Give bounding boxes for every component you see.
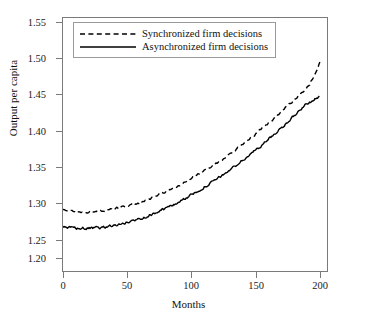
y-tick-label: 1.25 <box>28 236 46 246</box>
x-tick-label: 100 <box>183 281 199 291</box>
y-tick-label: 1.40 <box>28 127 46 137</box>
x-axis-title: Months <box>0 298 377 310</box>
y-tick-label: 1.20 <box>28 254 46 264</box>
x-tick-label: 50 <box>122 281 133 291</box>
x-tick-label: 0 <box>60 281 65 291</box>
y-tick-label: 1.45 <box>28 90 46 100</box>
legend-item-synchronized: Synchronized firm decisions <box>79 27 268 40</box>
figure: 1.55 1.50 1.45 1.40 1.35 1.30 1.25 1.20 … <box>0 0 377 329</box>
x-tick-label: 200 <box>312 281 328 291</box>
legend-solid-line-icon <box>79 42 137 52</box>
x-tick-label: 150 <box>248 281 264 291</box>
y-tick-label: 1.50 <box>28 54 46 64</box>
y-axis-title: Output per capita <box>7 33 19 163</box>
legend: Synchronized firm decisions Asynchronize… <box>73 22 276 58</box>
legend-dashed-line-icon <box>79 29 137 39</box>
plot-area: Synchronized firm decisions Asynchronize… <box>62 17 328 272</box>
y-tick-label: 1.30 <box>28 199 46 209</box>
series-line-synchronized <box>63 62 320 213</box>
legend-label: Synchronized firm decisions <box>142 28 262 39</box>
y-tick-label: 1.35 <box>28 163 46 173</box>
legend-item-asynchronized: Asynchronized firm decisions <box>79 40 268 53</box>
legend-label: Asynchronized firm decisions <box>142 41 268 52</box>
y-tick-label: 1.55 <box>28 18 46 28</box>
series-line-asynchronized <box>63 96 319 229</box>
